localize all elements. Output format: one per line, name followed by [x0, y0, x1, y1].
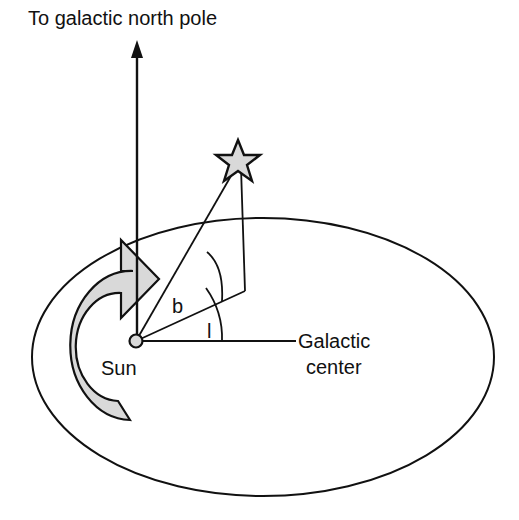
line-of-sight — [136, 162, 239, 341]
sun-marker — [130, 335, 143, 348]
star-icon — [216, 140, 260, 181]
sun-label: Sun — [101, 357, 137, 379]
in-plane-projection-line — [136, 291, 245, 341]
diagram-canvas: To galactic north pole Sun Galactic cent… — [0, 0, 519, 520]
galactic-center-label-line2: center — [306, 356, 362, 378]
latitude-label: b — [172, 295, 183, 317]
galactic-coordinates-diagram: To galactic north pole Sun Galactic cent… — [0, 0, 519, 520]
north-pole-label: To galactic north pole — [28, 7, 217, 29]
longitude-label: l — [207, 320, 211, 342]
star-drop-line — [241, 168, 245, 291]
galactic-center-label-line1: Galactic — [298, 330, 370, 352]
rotation-arrow-icon — [70, 240, 159, 420]
